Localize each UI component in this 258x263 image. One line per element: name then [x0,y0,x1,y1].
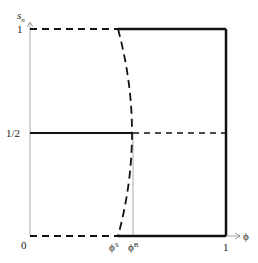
phi-b-label: ϕB [128,241,139,253]
y-tick-0: 0 [21,239,27,251]
y-tick-half: 1/2 [6,127,20,139]
x-axis-label: ϕ [243,230,249,242]
y-tick-1: 1 [17,23,23,35]
phase-diagram: sn 1 1/2 0 1 ϕ ϕS ϕB [0,0,258,263]
x-tick-1: 1 [223,241,229,253]
y-axis-label: sn [17,9,25,24]
phi-s-label: ϕS [109,241,119,253]
